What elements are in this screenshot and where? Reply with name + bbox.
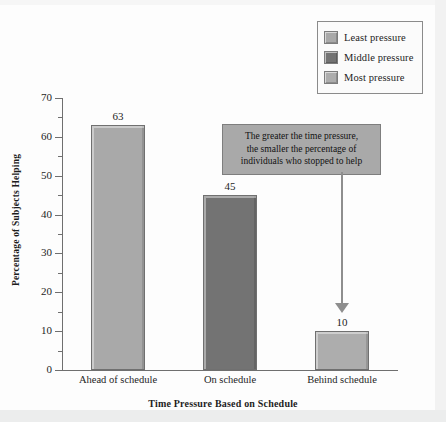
bar-chart-figure: Least pressure Middle pressure Most pres… (0, 0, 446, 422)
x-tick-label-ahead-of-schedule: Ahead of schedule (79, 374, 157, 385)
legend-label-middle-pressure: Middle pressure (344, 52, 413, 63)
legend-item-most-pressure: Most pressure (324, 67, 416, 87)
annotation-line-1: The greater the time pressure, (229, 130, 374, 143)
y-axis-major-tick (55, 292, 62, 293)
annotation-arrow-head (335, 303, 349, 313)
legend-item-least-pressure: Least pressure (324, 27, 416, 47)
y-axis-major-tick (55, 215, 62, 216)
y-axis-tick-label: 10 (28, 325, 52, 336)
bar-on-schedule (203, 195, 257, 370)
x-tick-label-behind-schedule: Behind schedule (307, 374, 377, 385)
bar-group-ahead-of-schedule: 63 Ahead of schedule (62, 98, 174, 370)
chart-legend: Least pressure Middle pressure Most pres… (317, 21, 423, 94)
y-axis-tick-label: 70 (28, 92, 52, 103)
page-edge-right (435, 0, 446, 422)
bar-behind-schedule (315, 331, 369, 370)
y-axis-major-tick (55, 253, 62, 254)
page-edge-top (0, 0, 446, 5)
legend-swatch-least-pressure (324, 31, 338, 44)
annotation-callout: The greater the time pressure, the small… (222, 124, 381, 175)
y-axis-tick-label: 0 (28, 364, 52, 375)
y-axis-tick-label: 40 (28, 209, 52, 220)
legend-label-least-pressure: Least pressure (344, 32, 406, 43)
annotation-arrow-shaft (341, 172, 343, 305)
y-axis-tick-label: 50 (28, 170, 52, 181)
y-axis-major-tick (55, 137, 62, 138)
annotation-line-3: individuals who stopped to help (229, 155, 374, 168)
x-tick-label-on-schedule: On schedule (204, 374, 256, 385)
annotation-line-2: the smaller the percentage of (229, 143, 374, 156)
bar-value-ahead-of-schedule: 63 (113, 110, 124, 122)
x-axis-line (62, 370, 398, 371)
y-axis-major-tick (55, 370, 62, 371)
y-axis-tick-label: 20 (28, 286, 52, 297)
y-axis-major-tick (55, 176, 62, 177)
y-axis-tick-label: 30 (28, 247, 52, 258)
legend-swatch-most-pressure (324, 71, 338, 84)
y-axis-major-tick (55, 98, 62, 99)
y-axis-major-tick (55, 331, 62, 332)
y-axis-tick-labels: 010203040506070 (20, 0, 52, 422)
y-axis-tick-label: 60 (28, 131, 52, 142)
legend-swatch-middle-pressure (324, 51, 338, 64)
bar-value-behind-schedule: 10 (337, 316, 348, 328)
legend-label-most-pressure: Most pressure (344, 72, 405, 83)
y-axis-title: Percentage of Subjects Helping (11, 125, 21, 315)
bar-value-on-schedule: 45 (225, 180, 236, 192)
legend-item-middle-pressure: Middle pressure (324, 47, 416, 67)
page-edge-bottom (0, 410, 446, 422)
x-axis-title: Time Pressure Based on Schedule (0, 398, 446, 409)
bar-ahead-of-schedule (91, 125, 145, 370)
